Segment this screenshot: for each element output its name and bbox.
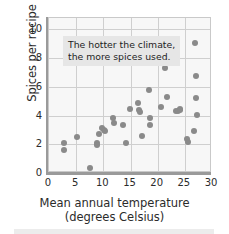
data-point [74, 134, 80, 140]
x-tick-label: 20 [147, 177, 167, 188]
data-point [111, 120, 117, 126]
data-point [193, 95, 199, 101]
data-point [61, 140, 67, 146]
annotation-line-2: the more spices used. [68, 51, 175, 63]
data-point [147, 122, 153, 128]
y-tick-label: 6 [22, 80, 42, 91]
y-tick-label: 10 [22, 23, 42, 34]
data-point [127, 106, 133, 112]
x-tick-label: 15 [120, 177, 140, 188]
data-point [61, 147, 67, 153]
chart-annotation: The hotter the climate, the more spices … [63, 36, 180, 66]
data-point [192, 40, 198, 46]
data-point [158, 104, 164, 110]
gridline-horizontal [49, 116, 210, 117]
data-point [194, 112, 200, 118]
gridline-horizontal [49, 87, 210, 88]
gridline-vertical [185, 18, 186, 171]
data-point [94, 142, 100, 148]
data-point [87, 165, 93, 171]
y-tick-label: 8 [22, 52, 42, 63]
plot-area: The hotter the climate, the more spices … [48, 17, 211, 172]
data-point [147, 115, 153, 121]
x-axis-title-line-1: Mean annual temperature [0, 196, 229, 210]
x-tick-label: 25 [174, 177, 194, 188]
data-point [123, 140, 129, 146]
y-tick-label: 0 [22, 167, 42, 178]
y-tick-label: 2 [22, 138, 42, 149]
data-point [164, 94, 170, 100]
scatter-plot-figure: Spices per recipe The hotter the climate… [0, 0, 229, 234]
x-tick-label: 30 [201, 177, 221, 188]
y-tick-label: 4 [22, 109, 42, 120]
x-axis-title-line-2: (degrees Celsius) [0, 210, 229, 224]
data-point [191, 128, 197, 134]
x-axis-title: Mean annual temperature (degrees Celsius… [0, 196, 229, 224]
x-axis-line [48, 172, 211, 175]
data-point [177, 107, 183, 113]
data-point [135, 100, 141, 106]
data-point [120, 122, 126, 128]
data-point [102, 128, 108, 134]
x-tick-label: 5 [65, 177, 85, 188]
gridline-horizontal [49, 29, 210, 30]
annotation-line-1: The hotter the climate, [68, 39, 175, 51]
data-point [185, 139, 191, 145]
footer-band [14, 229, 214, 234]
data-point [139, 133, 145, 139]
x-tick-label: 10 [92, 177, 112, 188]
x-tick-label: 0 [38, 177, 58, 188]
data-point [193, 73, 199, 79]
data-point [146, 87, 152, 93]
data-point [137, 109, 143, 115]
